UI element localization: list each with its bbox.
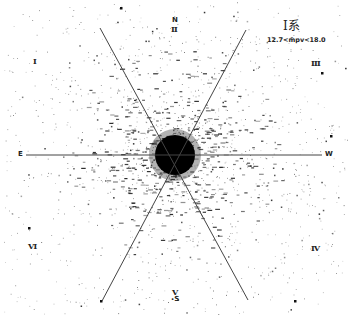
sector-label-I: Ⅰ (33, 57, 36, 65)
west-label: W (325, 151, 333, 158)
sector-dividers (26, 28, 322, 301)
sector-label-III: Ⅲ (311, 59, 320, 67)
sector-label-VI: Ⅵ (28, 242, 37, 250)
magnitude-range: 12.7<m̄pv<18.0 (267, 37, 326, 44)
south-label: •S (171, 296, 179, 303)
star-distribution-plot (0, 0, 350, 319)
figure-title: Ⅰ系 (283, 20, 300, 32)
sector-label-IV: Ⅳ (311, 244, 320, 252)
sector-label-II: Ⅱ (171, 25, 177, 33)
east-label: E (18, 151, 23, 158)
north-label: N (172, 17, 178, 24)
